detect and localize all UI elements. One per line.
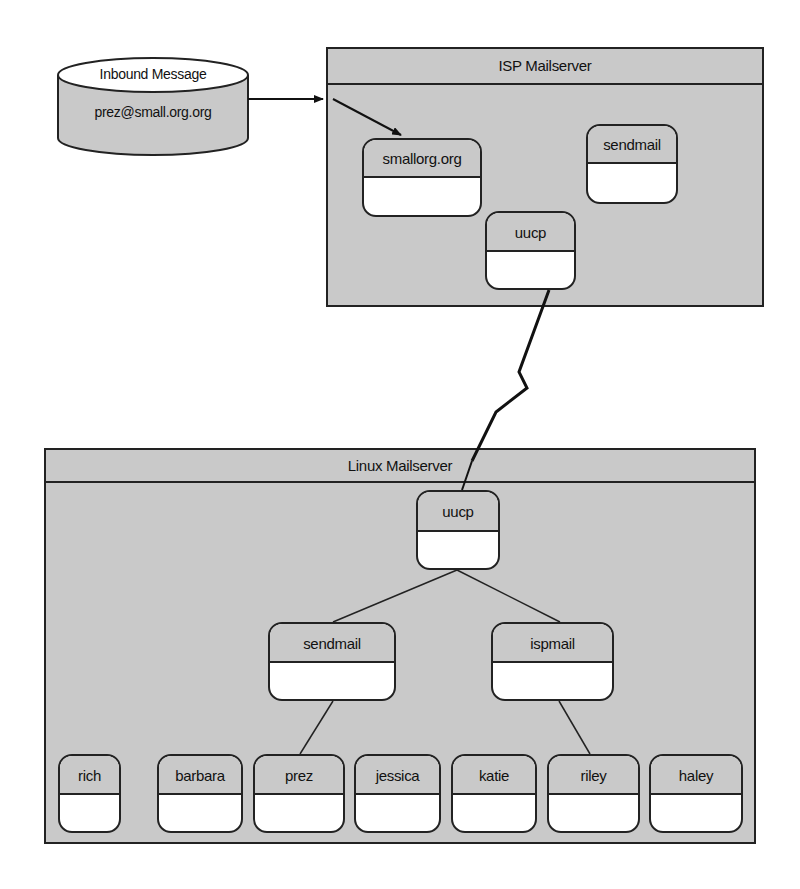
diagram-connectors — [0, 0, 800, 889]
uucp-link-lightning — [472, 290, 549, 461]
uucp-to-sendmail-line — [333, 570, 457, 622]
inbound-message-address: prez@small.org.org — [58, 104, 248, 120]
uucp-to-ispmail-line — [457, 570, 560, 622]
sendmail-to-prez-line — [300, 701, 333, 754]
ispmail-to-riley-line — [559, 701, 590, 754]
smallorg-arrow — [333, 99, 401, 135]
inbound-message-title: Inbound Message — [58, 66, 248, 82]
